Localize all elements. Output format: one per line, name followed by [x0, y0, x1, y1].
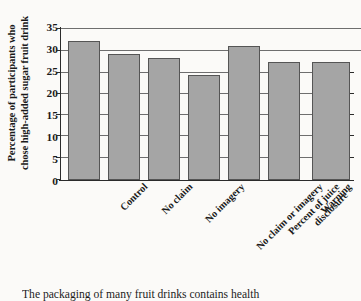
caption-text: The packaging of many fruit drinks conta… — [22, 288, 352, 301]
bar-no-claim-or-imagery[interactable] — [188, 75, 220, 180]
y-tick-mark-5 — [56, 157, 61, 158]
y-tick-label-5: 5 — [52, 154, 58, 165]
x-tick-label-no-imagery: No imagery — [203, 181, 248, 226]
gridline-30 — [60, 50, 361, 51]
gridline-35 — [60, 28, 361, 29]
y-tick-mark-30 — [56, 50, 61, 51]
bar-control[interactable] — [68, 41, 100, 180]
y-tick-label-10: 10 — [47, 132, 58, 143]
x-tick-label-control: Control — [118, 181, 151, 214]
plot-area — [60, 33, 361, 180]
y-tick-mark-25 — [56, 72, 61, 73]
y-axis-title-line-1: Percentage of participants who — [5, 16, 18, 170]
y-tick-mark-20 — [56, 93, 61, 94]
bar-warning-and-teaspoons[interactable] — [312, 62, 350, 180]
y-tick-mark-35 — [56, 28, 61, 29]
bar-no-imagery[interactable] — [148, 58, 180, 180]
y-tick-mark-15 — [56, 114, 61, 115]
y-tick-mark-10 — [56, 135, 61, 136]
bar-percent-of-juice-disclosure[interactable] — [228, 46, 260, 180]
y-axis-title: Percentage of participants who chose hig… — [0, 0, 36, 186]
bar-chart-figure: Percentage of participants who chose hig… — [0, 0, 361, 301]
y-axis-tick-labels: 35 30 25 20 15 10 5 0 — [34, 28, 58, 182]
y-tick-label-15: 15 — [47, 110, 58, 121]
gridline-25 — [60, 72, 354, 73]
bar-no-claim[interactable] — [108, 54, 140, 180]
x-axis-tick-labels: Control No claim No imagery No claim or … — [60, 181, 361, 293]
bar-warning[interactable] — [268, 62, 300, 180]
y-tick-label-0: 0 — [52, 176, 58, 187]
x-tick-label-no-claim: No claim — [159, 181, 195, 217]
y-axis-title-line-2: chose high-added sugar fruit drink — [18, 16, 31, 170]
